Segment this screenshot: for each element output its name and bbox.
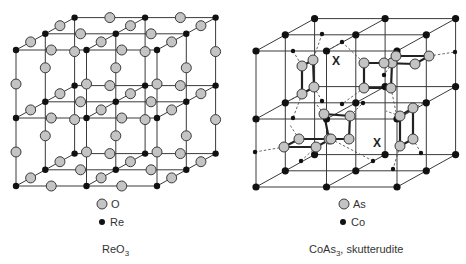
as-atom xyxy=(408,134,418,144)
o-atom xyxy=(96,105,106,115)
o-atom xyxy=(26,173,36,183)
re-atom xyxy=(212,82,218,88)
co-atom xyxy=(252,47,259,54)
re-atom xyxy=(154,47,160,53)
as-atom xyxy=(319,109,329,119)
o-atom xyxy=(152,79,162,89)
as-atom xyxy=(326,134,336,144)
legend-label-as: As xyxy=(353,198,366,210)
o-atom xyxy=(11,147,21,157)
o-atom xyxy=(117,113,127,123)
o-atom xyxy=(211,47,221,57)
caption-subscript: 3 xyxy=(125,249,130,258)
legend-label-re: Re xyxy=(110,216,124,228)
co-atom xyxy=(282,99,289,106)
co-atom-small xyxy=(340,40,344,44)
crystal-structures-figure: XX O Re ReO3 As Co CoAs3, skutterudite xyxy=(0,0,466,264)
o-atom xyxy=(175,81,185,91)
co-atom-small xyxy=(291,116,295,120)
o-atom xyxy=(76,165,86,175)
as-atom xyxy=(359,83,369,93)
as-atom xyxy=(309,82,319,92)
co-atom-small xyxy=(320,99,324,103)
co-atom-small xyxy=(423,100,427,104)
coas3-lattice-edge xyxy=(285,19,314,35)
co-atom-small xyxy=(391,167,395,171)
o-atom-legend-icon xyxy=(97,199,107,209)
o-atom xyxy=(82,79,92,89)
re-atom xyxy=(113,31,119,37)
o-atom xyxy=(181,63,191,73)
o-atom xyxy=(55,21,65,31)
co-atom xyxy=(352,31,359,38)
reo3-caption: ReO3 xyxy=(102,243,130,258)
as-atom xyxy=(297,61,307,71)
coas3-lattice-edge xyxy=(397,35,426,51)
o-atom xyxy=(167,105,177,115)
co-atom xyxy=(352,99,359,106)
o-atom xyxy=(46,45,56,55)
o-atom xyxy=(117,45,127,55)
re-atom xyxy=(83,183,89,189)
o-atom xyxy=(167,37,177,47)
re-atom xyxy=(113,99,119,105)
o-atom xyxy=(76,97,86,107)
o-atom xyxy=(196,21,206,31)
co-atom xyxy=(452,83,459,90)
re-atom xyxy=(154,183,160,189)
as-atom xyxy=(279,142,289,152)
as-atom xyxy=(311,142,321,152)
re-atom xyxy=(83,115,89,121)
o-atom xyxy=(82,147,92,157)
co-atom-small xyxy=(453,50,457,54)
o-atom xyxy=(146,29,156,39)
caption-text: CoAs xyxy=(309,243,336,255)
coas3-lattice-edge xyxy=(426,87,455,103)
as-atom xyxy=(391,51,401,61)
co-atom-small xyxy=(320,32,324,36)
o-atom xyxy=(125,157,135,167)
o-atom xyxy=(140,115,150,125)
as-atom xyxy=(344,134,354,144)
co-atom-small xyxy=(340,102,344,106)
co-atom xyxy=(352,167,359,174)
o-atom xyxy=(125,21,135,31)
o-atom xyxy=(26,105,36,115)
o-atom xyxy=(105,149,115,159)
o-atom xyxy=(55,157,65,167)
legend-label-o: O xyxy=(111,198,120,210)
reo3-structure xyxy=(11,13,221,191)
co-atom-small xyxy=(361,101,365,105)
re-atom xyxy=(183,167,189,173)
re-atom xyxy=(113,167,119,173)
coas3-lattice-edge xyxy=(256,171,285,187)
o-atom xyxy=(175,13,185,23)
o-atom xyxy=(146,165,156,175)
o-atom xyxy=(70,47,80,57)
re-atom xyxy=(71,150,77,156)
coas3-lattice-edge xyxy=(356,155,385,171)
as-atom-legend-icon xyxy=(339,199,349,209)
as-atom xyxy=(424,51,434,61)
re-atom xyxy=(83,47,89,53)
coas3-lattice-edge xyxy=(426,155,455,171)
re-atom xyxy=(142,150,148,156)
co-atom xyxy=(311,15,318,22)
re-atom xyxy=(212,14,218,20)
vacancy-marker: X xyxy=(373,136,381,150)
re-atom xyxy=(154,115,160,121)
coas3-lattice-edge xyxy=(397,171,426,187)
o-atom xyxy=(211,115,221,125)
caption-suffix: , skutterudite xyxy=(340,243,403,255)
co-atom-small xyxy=(299,159,303,163)
coas3-caption: CoAs3, skutterudite xyxy=(309,243,403,258)
caption-text: ReO xyxy=(102,243,125,255)
co-atom xyxy=(252,183,259,190)
coas3-legend: As Co xyxy=(339,198,366,228)
as-atom xyxy=(294,134,304,144)
re-atom xyxy=(42,99,48,105)
o-atom xyxy=(55,89,65,99)
o-atom xyxy=(181,131,191,141)
as-atom xyxy=(359,58,369,68)
o-atom xyxy=(40,131,50,141)
